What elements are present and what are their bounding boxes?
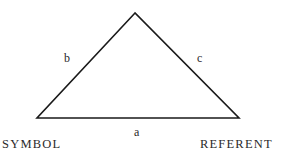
vertex-label-referent: REFERENT [200, 137, 273, 151]
edge-label-c: c [197, 51, 202, 65]
vertex-label-symbol: SYMBOL [2, 137, 61, 151]
edge-label-b: b [64, 51, 70, 65]
edge-label-a: a [134, 125, 140, 139]
triangle-shape [37, 13, 239, 118]
semiotic-triangle-diagram: b c a SYMBOL REFERENT [0, 0, 282, 151]
